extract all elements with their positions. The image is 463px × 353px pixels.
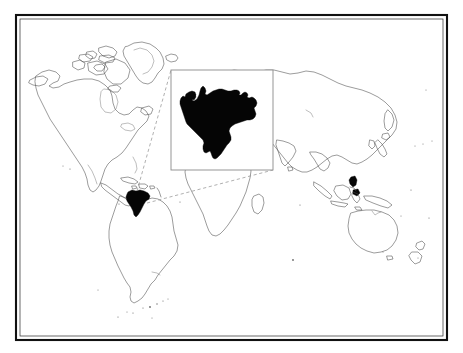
- island-diego-ramirez: [117, 316, 118, 317]
- map-background: [0, 0, 463, 353]
- map-figure-page: Venezuela map: [0, 0, 463, 353]
- locator-map-figure: [0, 0, 463, 353]
- island-falklands: [149, 306, 151, 308]
- world-map-svg: [0, 0, 463, 353]
- islet-cape-verde: [179, 201, 180, 202]
- islet-pacific-a: [410, 189, 411, 190]
- island-south-sandwich: [168, 299, 169, 300]
- islet-pacific-c: [401, 216, 402, 217]
- islet-aleutian-b: [432, 141, 433, 142]
- islet-aleutian-a: [423, 144, 424, 145]
- islet-pacific-b: [428, 217, 429, 218]
- island-falklands-east: [156, 303, 157, 304]
- islet-aleutian-c: [415, 146, 416, 147]
- islet-maldives: [299, 204, 300, 205]
- islet-hawaii: [69, 168, 70, 169]
- venezuela-inset: [171, 70, 273, 170]
- island-minor-b: [127, 312, 128, 313]
- island-south-shetland: [132, 312, 133, 313]
- islet-pacific-s: [98, 290, 99, 291]
- islet-arctic-a: [426, 90, 427, 91]
- island-south-georgia-a: [142, 307, 143, 308]
- islet-pacific-d: [418, 258, 419, 259]
- islet-galapagos: [118, 203, 119, 204]
- islet-tasman: [383, 252, 384, 253]
- island-minor-a: [152, 318, 153, 319]
- islet-hawaii-b: [63, 166, 64, 167]
- islet-indian-ocean: [292, 259, 294, 261]
- island-south-georgia-b: [162, 300, 163, 301]
